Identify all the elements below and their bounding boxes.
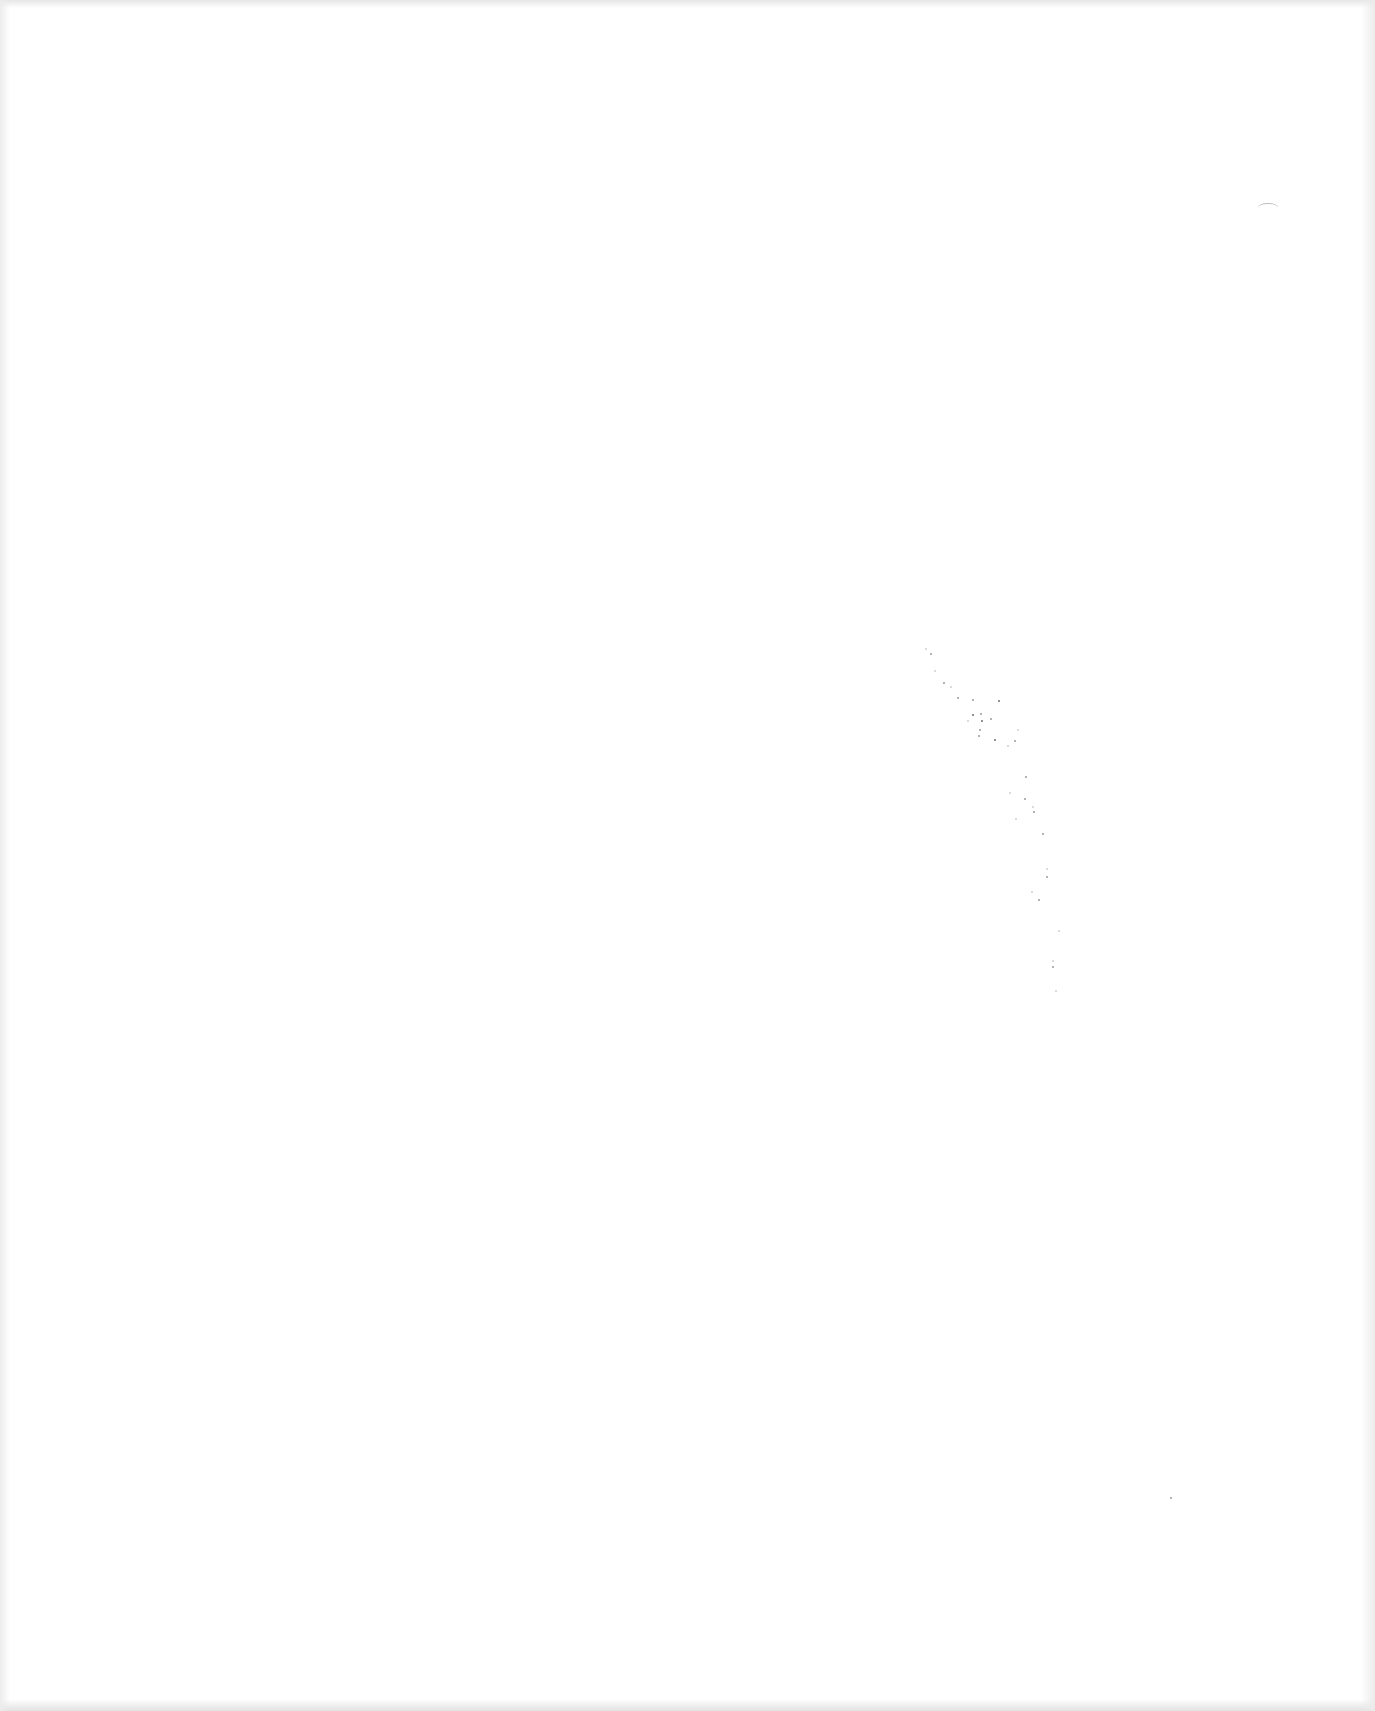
blank-page <box>0 0 1375 1711</box>
scan-mark <box>1258 203 1278 212</box>
scan-edge-left <box>0 0 10 1711</box>
scan-edge-top <box>0 0 1375 8</box>
scan-edge-right <box>1361 0 1375 1711</box>
scan-edge-bottom <box>0 1699 1375 1711</box>
